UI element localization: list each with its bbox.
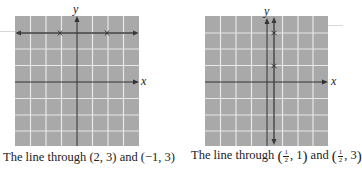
coordinate-grid-right — [0, 0, 343, 150]
x-axis-label: x — [331, 74, 336, 89]
y-axis-label: y — [264, 4, 269, 19]
figure-caption: The line through (12, 1) and (12, 3) — [191, 148, 362, 165]
fraction-one-half: 12 — [338, 149, 344, 164]
fraction-one-half: 12 — [283, 149, 289, 164]
